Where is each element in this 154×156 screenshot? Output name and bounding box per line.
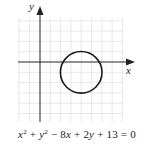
eq-operator: + 2 bbox=[71, 128, 89, 140]
y-axis-arrow-icon bbox=[37, 6, 44, 15]
circle-equation: x2 + y2 − 8x + 2y + 13 = 0 bbox=[0, 128, 154, 140]
circle-graph-figure: y x x2 + y2 − 8x + 2y + 13 = 0 bbox=[0, 0, 154, 156]
grid bbox=[18, 18, 123, 122]
eq-operator: − 8 bbox=[48, 128, 66, 140]
x-axis bbox=[18, 59, 135, 66]
eq-operator: + bbox=[27, 128, 39, 140]
x-axis-label: x bbox=[126, 64, 131, 76]
y-axis-label: y bbox=[29, 0, 34, 12]
y-axis bbox=[37, 6, 44, 122]
eq-constant: + 13 = 0 bbox=[94, 128, 136, 140]
